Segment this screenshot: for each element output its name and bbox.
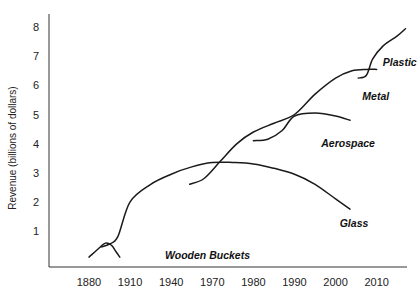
x-tick-label: 1880 bbox=[77, 276, 101, 288]
y-axis-title: Revenue (billions of dollars) bbox=[7, 86, 18, 209]
y-tick-label: 7 bbox=[33, 50, 39, 62]
x-tick-label: 2000 bbox=[323, 276, 347, 288]
y-axis-ticks: 12345678 bbox=[33, 21, 39, 237]
x-tick-label: 1910 bbox=[118, 276, 142, 288]
series-label-aerospace: Aerospace bbox=[320, 137, 375, 149]
y-tick-label: 6 bbox=[33, 79, 39, 91]
x-axis-ticks: 18801910194019701980199020002010 bbox=[77, 276, 389, 288]
series-label-plastic: Plastic bbox=[383, 56, 417, 68]
y-tick-label: 1 bbox=[33, 225, 39, 237]
y-tick-label: 2 bbox=[33, 196, 39, 208]
y-axis-label: Revenue (billions of dollars) bbox=[7, 86, 18, 209]
series-line-plastic bbox=[358, 29, 405, 78]
x-tick-label: 1940 bbox=[159, 276, 183, 288]
revenue-line-chart: Revenue (billions of dollars) 12345678 1… bbox=[0, 0, 418, 297]
series-line-metal bbox=[190, 69, 377, 184]
series-label-glass: Glass bbox=[340, 217, 369, 229]
y-tick-label: 5 bbox=[33, 109, 39, 121]
series-line-glass bbox=[101, 162, 350, 247]
x-tick-label: 2010 bbox=[364, 276, 388, 288]
series-line-wooden-buckets bbox=[89, 243, 120, 257]
series-label-wooden-buckets: Wooden Buckets bbox=[165, 249, 250, 261]
y-tick-label: 3 bbox=[33, 167, 39, 179]
y-tick-label: 8 bbox=[33, 21, 39, 33]
x-tick-label: 1990 bbox=[282, 276, 306, 288]
y-tick-label: 4 bbox=[33, 138, 39, 150]
x-tick-label: 1970 bbox=[200, 276, 224, 288]
series-labels: Wooden BucketsGlassMetalAerospacePlastic bbox=[165, 56, 417, 260]
series-label-metal: Metal bbox=[362, 90, 390, 102]
x-tick-label: 1980 bbox=[241, 276, 265, 288]
